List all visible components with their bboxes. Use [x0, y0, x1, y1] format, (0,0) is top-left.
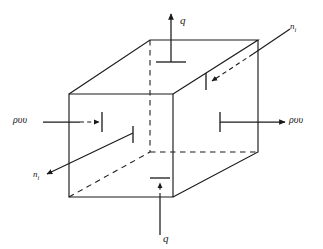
flux-right-arrow	[220, 112, 285, 132]
normal-ur-dashed-stem	[212, 54, 253, 81]
normal-lower-left-arrow	[47, 126, 133, 174]
normal-ur-subscript: i	[295, 26, 297, 33]
front-face-edges	[69, 94, 173, 197]
q-top-label: q	[180, 15, 186, 26]
flux-right-label: ρυυ	[289, 115, 303, 125]
q-bottom-label: q	[163, 233, 169, 244]
normal-lower-left-label: ni	[33, 170, 39, 181]
hidden-diagonal-edge	[69, 152, 150, 197]
top-face-edges	[69, 40, 258, 94]
right-face-edges	[173, 40, 258, 197]
q-bottom-arrow	[150, 178, 170, 235]
box-solid-edges	[69, 40, 258, 197]
normal-ll-subscript: i	[38, 174, 40, 181]
normal-upper-right-arrow	[206, 29, 290, 90]
normal-ll-stem	[47, 133, 133, 174]
flux-left-label: ρυυ	[13, 115, 27, 125]
flux-left-arrow	[43, 112, 102, 132]
normal-upper-right-label: ni	[290, 22, 296, 33]
control-volume-figure: q q ρυυ ρυυ ni ni	[0, 0, 323, 249]
box-hidden-edges	[69, 40, 258, 197]
diagram-canvas	[0, 0, 323, 249]
